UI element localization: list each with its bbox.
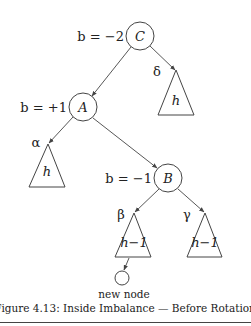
node-new	[115, 271, 129, 285]
edge-a-alpha	[49, 117, 73, 143]
node-b-label: B	[162, 171, 173, 186]
edge-beta-new	[124, 258, 129, 270]
bottom-rule	[0, 322, 251, 323]
edge-b-gamma	[178, 189, 204, 212]
height-gamma: h−1	[191, 235, 219, 250]
label-alpha: α	[32, 135, 41, 150]
label-gamma: γ	[183, 207, 191, 222]
edge-c-a	[92, 47, 131, 96]
balance-c: b = −2	[77, 29, 124, 44]
edge-a-b	[93, 118, 157, 168]
height-delta: h	[172, 93, 180, 108]
node-c-label: C	[135, 29, 145, 44]
height-beta: h−1	[120, 235, 148, 250]
height-alpha: h	[43, 164, 51, 179]
figure-caption: Figure 4.13: Inside Imbalance — Before R…	[0, 302, 251, 314]
balance-a: b = +1	[20, 100, 67, 115]
edge-b-beta	[135, 189, 159, 212]
node-a-label: A	[77, 100, 87, 115]
label-delta: δ	[153, 64, 161, 79]
label-beta: β	[117, 207, 125, 222]
new-node-label: new node	[98, 288, 149, 300]
avl-tree-diagram: C A B b = −2 b = +1 b = −1 δ α β γ h h h…	[0, 0, 251, 326]
balance-b: b = −1	[105, 171, 152, 186]
